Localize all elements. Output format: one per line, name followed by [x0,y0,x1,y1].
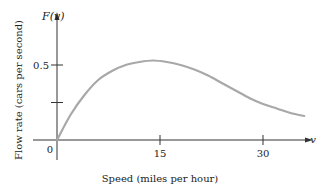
y-tick-label: 0.5 [33,60,49,71]
y-axis-label: Flow rate (cars per second) [13,20,24,160]
x-axis-label: Speed (miles per hour) [102,173,219,184]
flow-rate-curve [57,61,304,141]
ticks: 15300.5 [33,60,269,159]
axes [33,12,313,160]
origin-label: 0 [47,144,53,155]
y-axis-symbol: F(v) [41,10,64,23]
x-tick-label: 15 [154,148,167,159]
flow-rate-chart: 15300.5 F(v) v 0 Speed (miles per hour) … [0,0,318,188]
x-tick-label: 30 [257,148,270,159]
x-axis-symbol: v [310,134,316,145]
